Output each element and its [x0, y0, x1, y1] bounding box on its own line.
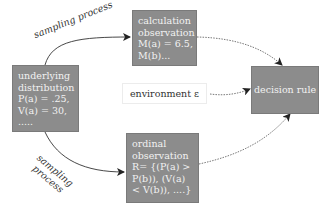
node-text: R= {(P(a) > — [132, 161, 193, 173]
edge-calc-to-decision — [197, 37, 282, 65]
node-text: M(a) = 6.5, — [138, 38, 191, 50]
node-text: ..... — [18, 116, 73, 128]
node-text: decision rule — [254, 84, 316, 96]
calculation-observation-node: calculation observation M(a) = 6.5, M(b)… — [132, 10, 197, 66]
node-text: P(a) = .25, — [18, 93, 73, 105]
environment-node: environment ε — [122, 83, 207, 104]
node-text: observation — [132, 150, 193, 162]
node-text: < V(b)), ....} — [132, 184, 193, 196]
decision-rule-node: decision rule — [251, 66, 319, 114]
node-text: ordinal — [132, 138, 193, 150]
ordinal-observation-node: ordinal observation R= {(P(a) > P(b)), (… — [126, 133, 199, 203]
node-text: distribution — [18, 82, 73, 94]
node-text: V(a) = 30, — [18, 105, 73, 117]
node-text: P(b)), (V(a) — [132, 173, 193, 185]
node-text: M(b)... — [138, 50, 191, 62]
node-text: underlying — [18, 70, 73, 82]
edge-env-to-decision — [210, 89, 250, 95]
edge-ordinal-to-decision — [199, 114, 290, 164]
node-text: calculation — [138, 15, 191, 27]
node-text: observation — [138, 27, 191, 39]
underlying-distribution-node: underlying distribution P(a) = .25, V(a)… — [12, 65, 79, 132]
edge-sampling-top — [45, 37, 130, 65]
